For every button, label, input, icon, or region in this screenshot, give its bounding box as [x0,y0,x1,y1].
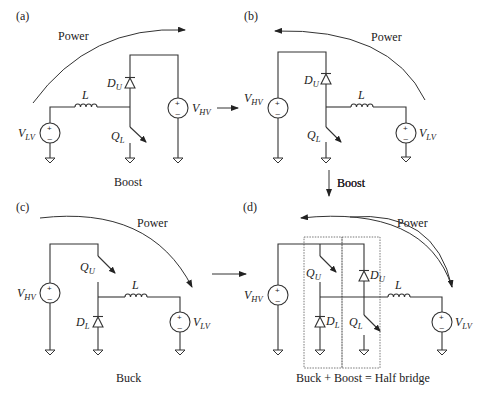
inductor-label: L [394,278,402,292]
switch-lower-symbol [364,315,380,331]
ground-icon [315,350,325,355]
source-low-label: VLV [419,126,438,142]
diode-label: DU [303,73,320,89]
inductor-label: L [81,88,89,102]
source-high-label: VHV [17,286,37,302]
voltage-source-low: + – [432,312,452,332]
power-flow-arrow [33,30,185,103]
converter-diagram: (a) Power L DU QL + – VLV [0,0,487,397]
ground-icon [45,350,55,355]
voltage-source-high: + – [168,98,188,118]
svg-text:+: + [275,286,280,295]
switch-lower-label: QL [349,315,363,331]
source-low-label: VLV [193,315,212,331]
svg-text:–: – [178,323,183,332]
voltage-source-high: + – [268,98,288,118]
panel-caption: Buck [116,371,141,385]
voltage-source-high: + – [268,285,288,305]
panel-tag: (b) [244,9,258,23]
wire [410,297,442,312]
source-low-label: VLV [455,315,474,331]
svg-text:–: – [48,134,53,143]
diode-lower-symbol [315,317,325,328]
inductor-symbol [351,104,373,107]
switch-label: QL [111,129,125,145]
wire [278,244,364,285]
power-label: Power [137,216,168,230]
source-low-label: VLV [18,126,37,142]
panel-c: (c) Power L QU DL + – VHV + – VLV [16,200,212,385]
diode-label: DL [75,315,90,331]
inductor-symbol [388,294,410,297]
switch-symbol [130,127,146,142]
ground-icon [401,157,411,162]
panel-tag: (a) [16,9,29,23]
svg-text:–: – [48,294,53,303]
source-high-label: VHV [192,101,212,117]
voltage-source-low: + – [396,123,416,143]
panel-a: (a) Power L DU QL + – VLV [16,9,212,189]
svg-text:+: + [177,313,182,322]
svg-text:–: – [440,323,445,332]
wire [50,107,75,123]
panel-d: (d) Power L QU DU DL QL [243,200,474,385]
ground-icon [321,158,331,163]
ground-icon [173,158,183,163]
ground-icon [273,158,283,163]
diode-upper-symbol [359,271,369,282]
switch-symbol [326,127,341,142]
switch-label: QU [80,260,96,276]
ground-icon [93,350,103,355]
svg-text:+: + [47,284,52,293]
svg-text:+: + [439,313,444,322]
ground-icon [437,350,447,355]
panel-caption: Buck + Boost = Half bridge [296,371,430,385]
wire [373,107,406,123]
switch-upper-label: QU [306,266,322,282]
buck-leg-box [304,237,342,368]
panel-tag: (d) [243,200,257,214]
diode-symbol [93,317,103,328]
switch-upper-symbol [320,256,336,272]
voltage-source-low: + – [40,123,60,143]
transition-caption: Boost [337,176,366,190]
diode-label: DU [106,76,123,92]
inductor-symbol [75,104,97,107]
svg-text:+: + [47,124,52,133]
svg-text:+: + [175,99,180,108]
svg-text:+: + [403,124,408,133]
ground-icon [359,350,369,355]
svg-text:+: + [275,99,280,108]
switch-label: QL [307,128,321,144]
inductor-symbol [125,294,147,297]
voltage-source-low: + – [170,312,190,332]
source-high-label: VHV [244,288,264,304]
ground-icon [273,350,283,355]
wire [130,55,178,98]
power-flow-arrow [40,216,192,287]
inductor-label: L [357,88,365,102]
power-flow-arrow [275,31,425,100]
wire [147,297,180,312]
diode-symbol [321,74,331,85]
wire [50,244,98,283]
diode-symbol [125,78,135,89]
ground-icon [45,158,55,163]
panel-b: (b) Power L DU QL + – VHV + – VL [244,9,438,163]
voltage-source-high: + – [40,283,60,303]
ground-icon [175,350,185,355]
source-high-label: VHV [244,91,264,107]
power-label: Power [397,216,428,230]
power-label: Power [371,30,402,44]
diode-lower-label: DL [325,314,340,330]
diode-upper-label: DU [369,268,386,284]
ground-icon [125,158,135,163]
power-label: Power [58,29,89,43]
boost-leg-box [342,237,380,368]
svg-text:–: – [404,134,409,143]
svg-text:–: – [276,296,281,305]
panel-caption: Boost [114,175,143,189]
panel-tag: (c) [16,200,29,214]
wire [278,52,326,98]
inductor-label: L [131,278,139,292]
